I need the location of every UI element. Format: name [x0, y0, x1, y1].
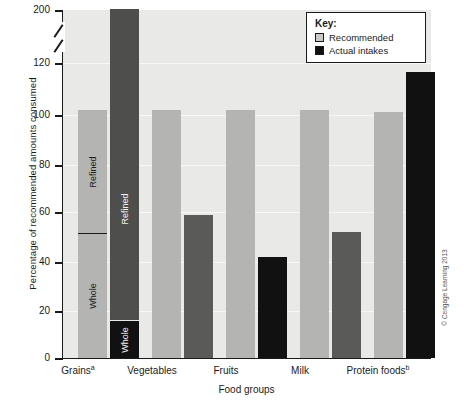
y-axis-title: Percentage of recommended amounts consum… — [27, 24, 38, 344]
segment-label-refined: Refined — [88, 156, 98, 187]
bar-milk-actual[interactable] — [332, 232, 361, 358]
chart-figure: Percentage of recommended amounts consum… — [0, 0, 465, 403]
legend-title: Key: — [315, 18, 418, 29]
x-label-milk: Milk — [269, 364, 331, 376]
x-label-vegetables: Vegetables — [121, 364, 183, 376]
y-tick-label-100: 100 — [0, 110, 50, 120]
x-label-grains-superscript: a — [91, 364, 95, 371]
y-tick-40 — [55, 262, 63, 264]
y-tick-100 — [55, 115, 63, 117]
segment-grains-actual-whole: Whole — [110, 321, 139, 358]
y-tick-label-200: 200 — [0, 5, 50, 15]
x-axis-title: Food groups — [62, 384, 431, 395]
bar-vegetables-actual[interactable] — [184, 215, 213, 358]
x-label-protein-foods: Protein foodsb — [338, 364, 418, 376]
x-label-grains: Grainsa — [47, 364, 109, 376]
chart-legend: Key: Recommended Actual intakes — [306, 12, 426, 63]
y-tick-label-120: 120 — [0, 58, 50, 68]
bar-protein-recommended[interactable] — [374, 112, 403, 358]
y-tick-120 — [55, 63, 63, 65]
bar-fruits-recommended[interactable] — [226, 110, 255, 358]
segment-grains-recommended-refined: Refined — [78, 110, 107, 234]
y-tick-label-60: 60 — [0, 207, 50, 217]
segment-divider-grains-actual — [110, 320, 139, 321]
y-tick-60 — [55, 212, 63, 214]
bar-fruits-actual[interactable] — [258, 257, 287, 358]
bar-milk-recommended[interactable] — [300, 110, 329, 358]
x-label-milk-text: Milk — [291, 365, 309, 376]
x-label-protein-foods-superscript: b — [406, 364, 410, 371]
bar-grains-actual[interactable]: Whole Refined — [110, 9, 139, 358]
y-tick-20 — [55, 311, 63, 313]
bar-protein-actual[interactable] — [406, 72, 435, 358]
y-tick-label-0: 0 — [0, 353, 50, 363]
x-label-protein-foods-text: Protein foods — [347, 365, 406, 376]
y-tick-label-40: 40 — [0, 257, 50, 267]
segment-divider-grains-recommended — [78, 233, 107, 234]
x-label-grains-text: Grains — [61, 365, 90, 376]
legend-item-recommended[interactable]: Recommended — [315, 32, 418, 43]
segment-label-refined: Refined — [120, 193, 130, 224]
x-label-vegetables-text: Vegetables — [127, 365, 177, 376]
legend-swatch-actual-intakes-icon — [315, 46, 324, 55]
legend-item-actual-intakes[interactable]: Actual intakes — [315, 45, 418, 56]
y-tick-label-20: 20 — [0, 306, 50, 316]
copyright-credit: © Cengage Learning 2013 — [441, 242, 448, 334]
legend-swatch-recommended-icon — [315, 33, 324, 42]
legend-label-actual-intakes: Actual intakes — [329, 45, 388, 56]
segment-grains-recommended-whole: Whole — [78, 234, 107, 358]
x-label-fruits-text: Fruits — [214, 365, 239, 376]
y-tick-0 — [55, 358, 63, 360]
segment-label-whole: Whole — [120, 327, 130, 353]
segment-grains-actual-refined: Refined — [110, 9, 139, 321]
y-tick-80 — [55, 165, 63, 167]
y-tick-label-80: 80 — [0, 160, 50, 170]
y-tick-200 — [55, 10, 63, 12]
segment-label-whole: Whole — [88, 283, 98, 309]
x-label-fruits: Fruits — [195, 364, 257, 376]
legend-label-recommended: Recommended — [329, 32, 393, 43]
bar-vegetables-recommended[interactable] — [152, 110, 181, 358]
bar-grains-recommended[interactable]: Whole Refined — [78, 110, 107, 358]
